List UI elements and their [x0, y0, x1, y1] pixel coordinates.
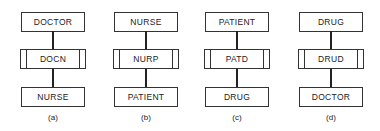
link-record-label: NURP: [133, 54, 158, 64]
owner-record-box: DRUG: [299, 12, 363, 32]
connector-line: [236, 69, 238, 87]
panel-b: NURSE NURP PATIENT (b): [114, 0, 178, 131]
connector-line: [330, 69, 332, 87]
link-record-box: PATD: [204, 49, 270, 69]
panel-caption: (b): [114, 113, 178, 122]
link-box-left-bar: [26, 50, 27, 68]
link-box-right-bar: [357, 50, 358, 68]
link-record-box: DRUD: [298, 49, 364, 69]
member-record-box: PATIENT: [114, 87, 178, 107]
link-record-box: DOCN: [20, 49, 86, 69]
member-record-box: DOCTOR: [299, 87, 363, 107]
link-box-right-bar: [172, 50, 173, 68]
owner-record-box: DOCTOR: [21, 12, 85, 32]
connector-line: [236, 31, 238, 49]
member-record-box: NURSE: [21, 87, 85, 107]
panel-caption: (d): [299, 113, 363, 122]
link-box-right-bar: [263, 50, 264, 68]
owner-record-box: PATIENT: [205, 12, 269, 32]
connector-line: [145, 31, 147, 49]
link-record-label: PATD: [226, 54, 249, 64]
link-box-right-bar: [79, 50, 80, 68]
link-record-label: DRUD: [318, 54, 344, 64]
panel-a: DOCTOR DOCN NURSE (a): [21, 0, 85, 131]
member-record-box: DRUG: [205, 87, 269, 107]
connector-line: [52, 31, 54, 49]
link-record-box: NURP: [113, 49, 179, 69]
owner-record-box: NURSE: [114, 12, 178, 32]
panel-d: DRUG DRUD DOCTOR (d): [299, 0, 363, 131]
panel-caption: (a): [21, 113, 85, 122]
link-box-left-bar: [304, 50, 305, 68]
link-box-left-bar: [210, 50, 211, 68]
connector-line: [52, 69, 54, 87]
connector-line: [145, 69, 147, 87]
link-record-label: DOCN: [40, 54, 66, 64]
panel-caption: (c): [205, 113, 269, 122]
link-box-left-bar: [119, 50, 120, 68]
connector-line: [330, 31, 332, 49]
panel-c: PATIENT PATD DRUG (c): [205, 0, 269, 131]
